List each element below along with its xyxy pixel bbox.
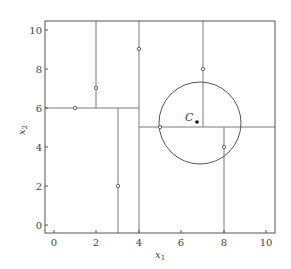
svg-text:0: 0 xyxy=(36,220,42,231)
svg-text:4: 4 xyxy=(136,237,142,248)
point-8-4 xyxy=(222,145,225,148)
x-axis-label: x1 xyxy=(155,249,165,262)
point-5-5 xyxy=(158,125,161,128)
svg-text:8: 8 xyxy=(36,64,42,75)
svg-text:10: 10 xyxy=(29,25,42,36)
svg-text:6: 6 xyxy=(36,103,42,114)
point-7-8 xyxy=(201,67,204,70)
svg-text:8: 8 xyxy=(221,237,227,248)
search-radius-circle xyxy=(159,82,241,164)
svg-text:2: 2 xyxy=(36,181,42,192)
x-tick-labels: 0 2 4 6 8 10 xyxy=(51,237,273,248)
y-axis-label: x2 xyxy=(16,125,29,135)
point-1-6 xyxy=(73,106,76,109)
point-4-9 xyxy=(137,47,140,50)
query-label: C xyxy=(185,111,194,124)
svg-text:2: 2 xyxy=(93,237,99,248)
svg-text:0: 0 xyxy=(51,237,57,248)
y-tick-labels: 0 2 4 6 8 10 xyxy=(29,25,42,231)
svg-text:4: 4 xyxy=(36,142,42,153)
point-2-7 xyxy=(94,86,97,89)
query-point-c xyxy=(195,120,199,124)
kd-tree-diagram: C 0 2 4 6 8 10 0 2 4 6 8 10 x1 x2 xyxy=(0,0,291,269)
svg-text:10: 10 xyxy=(260,237,273,248)
svg-text:6: 6 xyxy=(178,237,184,248)
point-3-2 xyxy=(116,184,119,187)
